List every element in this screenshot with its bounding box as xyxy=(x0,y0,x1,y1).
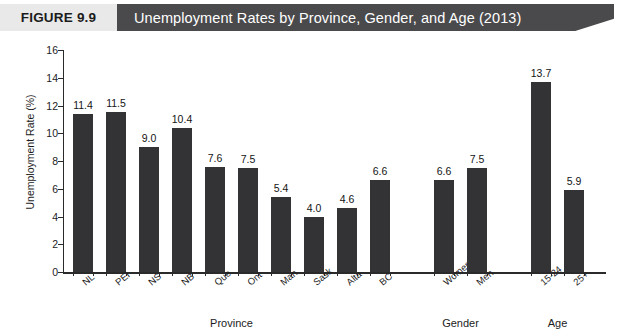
x-axis-tickmark xyxy=(106,272,107,276)
x-axis-group-label: Province xyxy=(172,317,292,329)
x-axis-tickmark xyxy=(531,272,532,276)
y-axis-tickmark xyxy=(58,217,63,218)
bar xyxy=(271,197,291,272)
x-axis-category-label: NS xyxy=(146,271,163,288)
y-axis-tickmark xyxy=(58,161,63,162)
bar xyxy=(370,180,390,272)
figure-number-label: FIGURE 9.9 xyxy=(21,10,97,25)
y-axis-tickmark xyxy=(58,106,63,107)
bar-chart: Unemployment Rate (%) 0246810121416 11.4… xyxy=(0,31,617,335)
x-axis-tickmark xyxy=(564,272,565,276)
x-axis-tickmark xyxy=(238,272,239,276)
bar-value-label: 6.6 xyxy=(360,165,400,177)
x-axis-group-label: Age xyxy=(498,317,617,329)
x-axis-tickmark xyxy=(159,272,160,276)
y-axis-tickmark xyxy=(58,244,63,245)
x-axis-tickmark xyxy=(584,272,585,276)
bar xyxy=(564,190,584,272)
bar xyxy=(73,114,93,272)
bar-value-label: 10.4 xyxy=(162,113,202,125)
figure-number-block: FIGURE 9.9 xyxy=(0,4,117,31)
x-axis-tickmark xyxy=(551,272,552,276)
bar xyxy=(106,112,126,272)
x-axis-tickmark xyxy=(434,272,435,276)
bar-value-label: 5.9 xyxy=(554,175,594,187)
bar xyxy=(139,147,159,272)
bar-value-label: 7.5 xyxy=(228,153,268,165)
figure-title-label: Unemployment Rates by Province, Gender, … xyxy=(117,10,521,26)
x-axis-tickmark xyxy=(357,272,358,276)
x-axis-tickmark xyxy=(304,272,305,276)
bar xyxy=(172,128,192,272)
x-axis-tickmark xyxy=(172,272,173,276)
plot-area: 11.4NL11.5PEI9.0NS10.4NB7.6Que7.5Ont5.4M… xyxy=(0,31,617,335)
bar xyxy=(337,208,357,272)
x-axis-tickmark xyxy=(337,272,338,276)
y-axis-tickmark xyxy=(58,78,63,79)
x-axis-tickmark xyxy=(487,272,488,276)
x-axis-tickmark xyxy=(126,272,127,276)
bar xyxy=(238,168,258,272)
figure-title-block: Unemployment Rates by Province, Gender, … xyxy=(117,4,614,31)
bar xyxy=(205,167,225,272)
bar xyxy=(467,168,487,272)
x-axis-tickmark xyxy=(370,272,371,276)
bar-value-label: 13.7 xyxy=(521,67,561,79)
bar xyxy=(531,82,551,272)
y-axis-tickmark xyxy=(58,133,63,134)
bar-value-label: 9.0 xyxy=(129,132,169,144)
x-axis-tickmark xyxy=(93,272,94,276)
x-axis-tickmark xyxy=(73,272,74,276)
x-axis-category-label: BC xyxy=(377,271,394,288)
bar xyxy=(434,180,454,272)
y-axis-tickmark xyxy=(58,189,63,190)
x-axis-tickmark xyxy=(205,272,206,276)
bar xyxy=(304,217,324,273)
y-axis-tickmark xyxy=(58,50,63,51)
x-axis-tickmark xyxy=(271,272,272,276)
bar-value-label: 6.6 xyxy=(424,165,464,177)
x-axis-category-label: NB xyxy=(179,271,196,288)
bar-value-label: 5.4 xyxy=(261,182,301,194)
x-axis-tickmark xyxy=(467,272,468,276)
x-axis-tickmark xyxy=(291,272,292,276)
x-axis-tickmark xyxy=(454,272,455,276)
x-axis-tickmark xyxy=(324,272,325,276)
figure-banner: FIGURE 9.9 Unemployment Rates by Provinc… xyxy=(0,4,617,31)
x-axis-tickmark xyxy=(192,272,193,276)
x-axis-tickmark xyxy=(225,272,226,276)
bar-value-label: 11.5 xyxy=(96,97,136,109)
y-axis-tickmark xyxy=(58,272,63,273)
x-axis-tickmark xyxy=(390,272,391,276)
x-axis-tickmark xyxy=(139,272,140,276)
bar-value-label: 4.6 xyxy=(327,193,367,205)
bar-value-label: 7.5 xyxy=(457,153,497,165)
x-axis-tickmark xyxy=(258,272,259,276)
